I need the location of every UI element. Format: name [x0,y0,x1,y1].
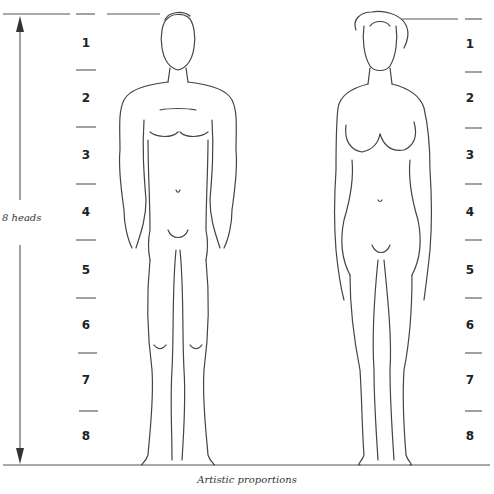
right-scale-7: 7 [460,373,480,387]
right-scale-6: 6 [460,318,480,332]
left-scale-ticks [76,70,98,411]
left-scale-3: 3 [76,148,96,162]
arrow-up-icon [16,16,24,32]
right-scale-1: 1 [460,37,480,51]
right-scale-5: 5 [460,263,480,277]
left-scale-6: 6 [76,318,96,332]
female-figure [335,11,432,465]
right-scale-4: 4 [460,205,480,219]
arrow-down-icon [16,448,24,464]
right-scale-3: 3 [460,148,480,162]
left-scale-7: 7 [76,373,96,387]
right-scale-ticks [465,72,482,411]
diagram-lines [0,0,494,494]
left-scale-5: 5 [76,263,96,277]
height-measure-label: 8 heads [2,212,41,223]
figure-caption: Artistic proportions [0,474,494,485]
right-scale-2: 2 [460,91,480,105]
left-scale-8: 8 [76,429,96,443]
right-scale-8: 8 [460,429,480,443]
left-scale-4: 4 [76,205,96,219]
male-figure [119,13,236,465]
left-scale-2: 2 [76,91,96,105]
proportions-diagram: 1 2 3 4 5 6 7 8 1 2 3 4 5 6 7 8 8 heads … [0,0,494,494]
left-scale-1: 1 [76,36,96,50]
